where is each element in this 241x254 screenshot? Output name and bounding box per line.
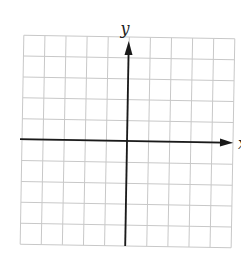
y-axis-arrow-icon xyxy=(125,41,133,55)
x-axis xyxy=(20,139,226,143)
coordinate-plane: y x xyxy=(0,0,241,254)
x-axis-label: x xyxy=(238,134,241,153)
y-axis-label: y xyxy=(119,19,130,38)
x-axis-arrow-icon xyxy=(220,139,233,147)
y-axis xyxy=(125,50,128,246)
